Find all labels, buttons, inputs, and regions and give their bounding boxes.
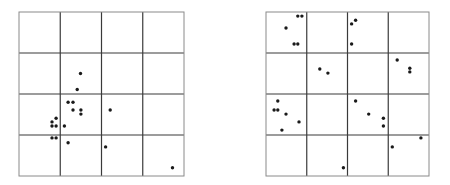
data-point (292, 42, 295, 45)
data-point (71, 108, 74, 111)
data-point (272, 108, 275, 111)
data-point (391, 145, 394, 148)
data-point (300, 14, 303, 17)
data-point (104, 145, 107, 148)
data-point (79, 72, 82, 75)
data-point (276, 99, 279, 102)
data-point (54, 124, 57, 127)
data-point (276, 108, 279, 111)
data-point (50, 136, 53, 139)
data-point (79, 108, 82, 111)
data-point (71, 101, 74, 104)
data-point (354, 19, 357, 22)
data-point (297, 120, 300, 123)
data-point (367, 112, 370, 115)
left-grid (19, 12, 184, 176)
data-point (54, 136, 57, 139)
data-point (350, 42, 353, 45)
data-point (76, 88, 79, 91)
data-point (318, 67, 321, 70)
data-point (284, 112, 287, 115)
data-point (296, 14, 299, 17)
data-point (63, 124, 66, 127)
data-point (109, 108, 112, 111)
data-point (350, 22, 353, 25)
data-point (419, 136, 422, 139)
data-point (284, 26, 287, 29)
data-point (280, 128, 283, 131)
right-grid (266, 12, 429, 176)
grid-diagrams (0, 0, 450, 185)
data-point (54, 117, 57, 120)
data-point (66, 141, 69, 144)
data-point (50, 120, 53, 123)
data-point (396, 58, 399, 61)
data-point (296, 42, 299, 45)
data-point (171, 166, 174, 169)
data-point (66, 101, 69, 104)
data-point (408, 70, 411, 73)
data-point (79, 112, 82, 115)
data-point (50, 124, 53, 127)
data-point (408, 67, 411, 70)
data-point (382, 124, 385, 127)
data-point (382, 117, 385, 120)
data-point (326, 71, 329, 74)
data-point (354, 99, 357, 102)
data-point (342, 166, 345, 169)
